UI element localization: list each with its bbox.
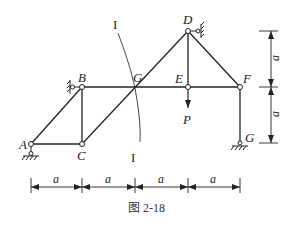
label-D: D	[182, 12, 193, 27]
label-G-support: G	[245, 130, 255, 145]
section-bottom-label: I	[131, 150, 135, 165]
joint-A	[29, 142, 34, 147]
dim-h-2: a	[105, 172, 111, 186]
dim-h-4: a	[210, 172, 216, 186]
dim-v-1: a	[268, 55, 282, 61]
dim-v-2: a	[268, 111, 282, 117]
vertical-dimensions	[259, 31, 278, 143]
load-label: P	[182, 112, 191, 127]
label-F: F	[242, 71, 252, 86]
dim-h-1: a	[53, 172, 59, 186]
truss-members	[31, 31, 240, 144]
section-top-label: I	[113, 17, 117, 32]
label-C: C	[77, 148, 86, 163]
joint-E	[186, 85, 191, 90]
joint-B	[80, 85, 85, 90]
truss-diagram: I I P A B C D	[0, 0, 289, 226]
horizontal-dimensions	[31, 178, 240, 193]
label-E: E	[174, 71, 183, 86]
dim-h-3: a	[158, 172, 164, 186]
label-B: B	[78, 70, 86, 85]
joint-F	[238, 85, 243, 90]
member-DF	[188, 31, 240, 87]
joint-C	[80, 142, 85, 147]
figure-caption: 图 2-18	[128, 201, 165, 215]
member-AB	[31, 87, 82, 144]
label-G-mid: G	[133, 70, 143, 85]
label-A: A	[18, 137, 27, 152]
joint-D	[186, 29, 191, 34]
